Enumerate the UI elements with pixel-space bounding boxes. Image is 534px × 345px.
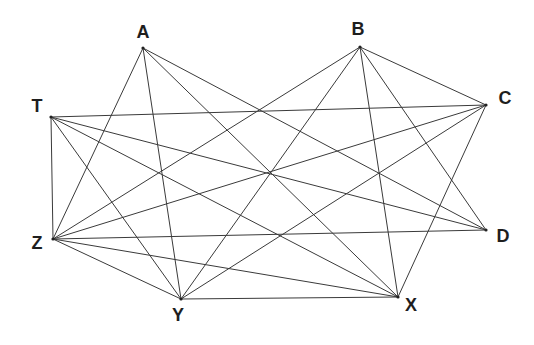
vertex-d	[484, 228, 487, 231]
edge-a-y	[143, 48, 181, 299]
vertex-label-d: D	[497, 226, 510, 246]
vertex-c	[484, 103, 487, 106]
edge-c-t	[51, 105, 486, 117]
vertex-label-z: Z	[32, 233, 43, 253]
edge-b-x	[360, 47, 398, 297]
vertex-label-c: C	[499, 88, 512, 108]
vertex-label-t: T	[32, 96, 43, 116]
edge-t-x	[51, 117, 398, 297]
edge-b-c	[360, 47, 486, 105]
vertex-a	[141, 46, 144, 49]
vertex-y	[179, 297, 182, 300]
edge-d-z	[53, 230, 486, 239]
edge-c-x	[398, 105, 486, 297]
vertex-label-a: A	[137, 22, 150, 42]
vertex-label-y: Y	[172, 305, 184, 325]
vertex-t	[49, 115, 52, 118]
edge-t-z	[51, 117, 53, 239]
vertex-b	[358, 45, 361, 48]
edge-z-x	[53, 239, 398, 297]
edge-b-y	[181, 47, 360, 299]
vertex-z	[51, 237, 54, 240]
edge-c-y	[181, 105, 486, 299]
edge-y-x	[181, 297, 398, 299]
edge-d-t	[51, 117, 486, 230]
edge-layer	[51, 47, 486, 299]
edge-c-z	[53, 105, 486, 239]
edge-b-z	[53, 47, 360, 239]
graph-diagram: ABCDXYZT	[0, 0, 534, 345]
vertex-x	[396, 295, 399, 298]
vertex-label-b: B	[352, 19, 365, 39]
edge-t-y	[51, 117, 181, 299]
edge-z-y	[53, 239, 181, 299]
vertex-label-x: X	[405, 295, 417, 315]
